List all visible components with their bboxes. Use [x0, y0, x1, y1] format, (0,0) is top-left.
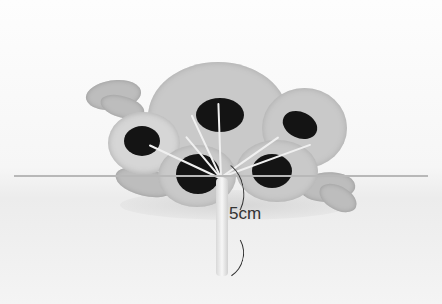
measurement-label: 5cm: [229, 204, 261, 224]
flower-center-left: [124, 126, 160, 156]
measure-arc-bottom: [190, 223, 249, 285]
bouquet-photo: 5cm: [0, 0, 442, 304]
